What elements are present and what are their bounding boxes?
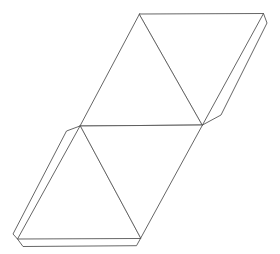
glue-tab-bottom [18,239,141,247]
tetrahedron-net-diagram [0,0,280,254]
faces [18,14,264,240]
